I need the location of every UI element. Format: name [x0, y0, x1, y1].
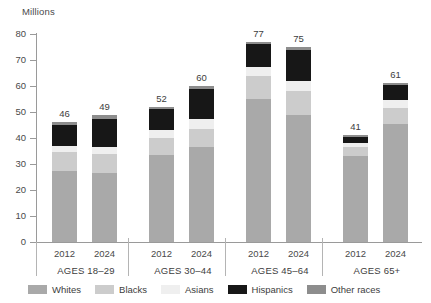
x-axis-group-label: AGES 30–44 — [128, 266, 238, 276]
legend-swatch-asians — [161, 285, 180, 294]
bar-segment-hispanics[interactable] — [149, 109, 174, 130]
bar-total-label: 49 — [82, 102, 127, 112]
y-tick-mark — [30, 60, 36, 61]
bar-total-label: 46 — [42, 109, 87, 119]
y-tick-label: 50 — [4, 107, 26, 117]
x-axis-year-label: 2024 — [179, 249, 224, 259]
bar-segment-blacks[interactable] — [246, 76, 271, 99]
legend-item[interactable]: Blacks — [95, 285, 147, 295]
bar-total-label: 52 — [139, 94, 184, 104]
bar-stack — [52, 122, 77, 242]
bar-segment-hispanics[interactable] — [52, 125, 77, 146]
x-axis-group-label: AGES 45–64 — [225, 266, 335, 276]
bar-total-label: 61 — [373, 70, 418, 80]
legend-label: Blacks — [119, 285, 147, 295]
y-tick-mark — [30, 112, 36, 113]
legend-swatch-other-races — [307, 285, 326, 294]
bar-segment-whites[interactable] — [343, 156, 368, 242]
bar-total-label: 60 — [179, 73, 224, 83]
legend-item[interactable]: Hispanics — [228, 285, 293, 295]
bar-segment-hispanics[interactable] — [92, 119, 117, 148]
bar-stack — [92, 115, 117, 242]
y-tick-mark — [30, 190, 36, 191]
bar-total-label: 41 — [333, 122, 378, 132]
legend-swatch-hispanics — [228, 285, 247, 294]
bar-segment-whites[interactable] — [246, 99, 271, 242]
bar-segment-asians[interactable] — [149, 130, 174, 138]
chart-legend: WhitesBlacksAsiansHispanicsOther races — [28, 285, 394, 295]
y-tick-label: 30 — [4, 159, 26, 169]
bar[interactable] — [189, 0, 214, 242]
legend-item[interactable]: Whites — [28, 285, 81, 295]
bar-segment-blacks[interactable] — [286, 91, 311, 114]
bar-total-label: 75 — [276, 34, 321, 44]
legend-swatch-blacks — [95, 285, 114, 294]
x-axis-year-label: 2024 — [82, 249, 127, 259]
bar-segment-whites[interactable] — [286, 115, 311, 242]
x-axis-group-label: AGES 65+ — [322, 266, 431, 276]
legend-item[interactable]: Asians — [161, 285, 214, 295]
bar[interactable] — [92, 0, 117, 242]
bar-segment-blacks[interactable] — [52, 152, 77, 170]
bar-segment-asians[interactable] — [246, 67, 271, 76]
x-axis-year-label: 2024 — [276, 249, 321, 259]
y-tick-label: 80 — [4, 29, 26, 39]
bar[interactable] — [149, 0, 174, 242]
y-tick-mark — [30, 216, 36, 217]
y-tick-label: 0 — [4, 237, 26, 247]
bar-stack — [149, 107, 174, 242]
bar[interactable] — [383, 0, 408, 242]
bar-segment-asians[interactable] — [286, 81, 311, 91]
y-tick-label: 60 — [4, 81, 26, 91]
bar-segment-hispanics[interactable] — [383, 85, 408, 101]
x-axis-year-label: 2012 — [139, 249, 184, 259]
stacked-bar-chart: Millions 80706050403020100 4649526077754… — [0, 0, 431, 303]
y-axis-title: Millions — [22, 6, 55, 17]
legend-item[interactable]: Other races — [307, 285, 381, 295]
bar-segment-hispanics[interactable] — [286, 50, 311, 81]
bar-total-label: 77 — [236, 29, 281, 39]
bar-segment-hispanics[interactable] — [246, 44, 271, 66]
bar-segment-blacks[interactable] — [189, 129, 214, 147]
y-tick-label: 70 — [4, 55, 26, 65]
y-tick-mark — [30, 86, 36, 87]
bar-segment-blacks[interactable] — [383, 108, 408, 124]
legend-label: Whites — [52, 285, 81, 295]
bar-segment-whites[interactable] — [383, 124, 408, 242]
y-axis-line — [36, 33, 37, 243]
x-axis-group-label: AGES 18–29 — [31, 266, 141, 276]
x-axis-year-label: 2012 — [42, 249, 87, 259]
bar-stack — [246, 42, 271, 242]
bar-segment-hispanics[interactable] — [189, 89, 214, 119]
y-tick-label: 20 — [4, 185, 26, 195]
bar-stack — [189, 86, 214, 242]
y-tick-mark — [30, 138, 36, 139]
bar-segment-blacks[interactable] — [343, 147, 368, 156]
bar-segment-asians[interactable] — [383, 100, 408, 108]
bar-segment-whites[interactable] — [92, 173, 117, 242]
legend-label: Hispanics — [252, 285, 293, 295]
y-tick-mark — [30, 34, 36, 35]
bar-segment-whites[interactable] — [52, 171, 77, 243]
legend-swatch-whites — [28, 285, 47, 294]
x-axis-baseline — [36, 242, 422, 243]
bar-stack — [383, 83, 408, 242]
bar-stack — [343, 135, 368, 242]
y-tick-label: 10 — [4, 211, 26, 221]
y-tick-mark — [30, 164, 36, 165]
legend-label: Asians — [185, 285, 214, 295]
bar[interactable] — [52, 0, 77, 242]
bar-segment-asians[interactable] — [189, 119, 214, 129]
bar-segment-blacks[interactable] — [149, 138, 174, 155]
legend-label: Other races — [331, 285, 381, 295]
x-axis-year-label: 2024 — [373, 249, 418, 259]
bar-stack — [286, 47, 311, 242]
bar-segment-whites[interactable] — [189, 147, 214, 242]
bar-segment-whites[interactable] — [149, 155, 174, 242]
y-tick-label: 40 — [4, 133, 26, 143]
x-axis-year-label: 2012 — [236, 249, 281, 259]
x-axis-year-label: 2012 — [333, 249, 378, 259]
bar-segment-blacks[interactable] — [92, 154, 117, 174]
